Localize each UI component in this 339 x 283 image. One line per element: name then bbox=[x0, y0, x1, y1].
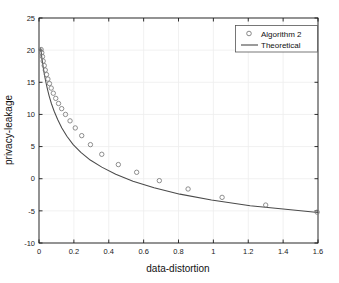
x-tick-label: 0.8 bbox=[173, 247, 183, 256]
x-tick-label: 1 bbox=[211, 247, 215, 256]
x-tick-label: 0.4 bbox=[104, 247, 114, 256]
y-tick-label: 20 bbox=[27, 46, 35, 55]
privacy-leakage-vs-data-distortion-chart: 00.20.40.60.811.21.41.6 2520151050-5-10 … bbox=[0, 0, 339, 283]
y-tick-label: 0 bbox=[31, 174, 35, 183]
y-tick-label: 10 bbox=[27, 110, 35, 119]
legend-item-label-theoretical: Theoretical bbox=[261, 41, 301, 50]
legend-item-label-algorithm-2: Algorithm 2 bbox=[261, 30, 302, 39]
x-axis-title: data-distortion bbox=[146, 263, 209, 274]
x-tick-label: 0 bbox=[37, 247, 41, 256]
x-tick-label: 0.2 bbox=[69, 247, 79, 256]
x-tick-label: 1.2 bbox=[243, 247, 253, 256]
y-tick-label: -5 bbox=[28, 207, 35, 216]
legend: Algorithm 2 Theoretical bbox=[236, 26, 318, 53]
chart-figure: 00.20.40.60.811.21.41.6 2520151050-5-10 … bbox=[0, 0, 339, 283]
y-tick-label: 25 bbox=[27, 14, 35, 23]
x-tick-label: 1.6 bbox=[313, 247, 323, 256]
y-tick-label: 5 bbox=[31, 142, 35, 151]
x-tick-label: 1.4 bbox=[278, 247, 288, 256]
y-axis-title: privacy-leakage bbox=[3, 95, 14, 165]
x-tick-label: 0.6 bbox=[138, 247, 148, 256]
y-tick-label: -10 bbox=[24, 239, 35, 248]
y-tick-label: 15 bbox=[27, 78, 35, 87]
